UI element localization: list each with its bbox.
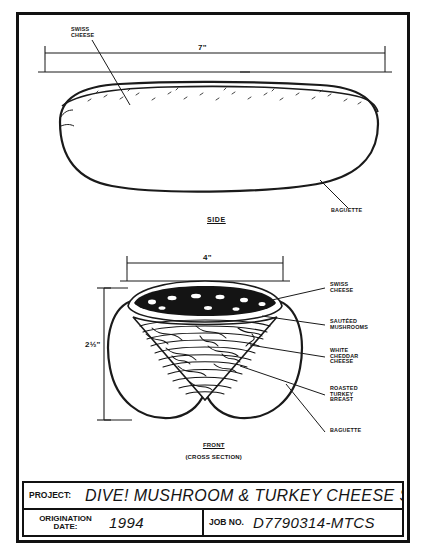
drawing-sheet: SWISS CHEESE BAGUETTE 7" SIDE 4" 2½" SWI… [0, 0, 426, 555]
side-width-dimension [38, 46, 392, 72]
job-number-value: D7790314-MTCS [246, 514, 375, 531]
title-block: PROJECT: DIVE! MUSHROOM & TURKEY CHEESE … [22, 481, 404, 537]
title-block-meta-row: ORIGINATION DATE: 1994 JOB NO. D7790314-… [24, 510, 402, 535]
origination-date-value: 1994 [102, 514, 144, 531]
front-callout-swiss-cheese: SWISS CHEESE [330, 282, 353, 293]
title-block-project-row: PROJECT: DIVE! MUSHROOM & TURKEY CHEESE … [24, 483, 402, 510]
side-width-dimension-label: 7" [195, 44, 210, 52]
drawing-artwork [0, 0, 426, 555]
side-callout-swiss-cheese: SWISS CHEESE [71, 27, 94, 38]
front-callout-baguette: BAGUETTE [330, 428, 361, 434]
front-callout-white-cheddar-cheese: WHITE CHEDDAR CHEESE [330, 348, 358, 365]
side-baguette-leader [320, 180, 348, 208]
project-label-cell: PROJECT: [24, 483, 78, 508]
job-number-label: JOB NO. [204, 518, 244, 526]
project-value-cell: DIVE! MUSHROOM & TURKEY CHEESE SUB [78, 483, 402, 508]
side-callout-baguette: BAGUETTE [331, 208, 362, 214]
origination-date-value-cell: 1994 [102, 510, 202, 535]
project-value: DIVE! MUSHROOM & TURKEY CHEESE SUB [78, 487, 402, 505]
front-callout-sauteed-mushrooms: SAUTÉED MUSHROOMS [330, 319, 368, 330]
job-number-value-cell: D7790314-MTCS [246, 510, 402, 535]
job-number-label-cell: JOB NO. [202, 510, 246, 535]
front-view-caption-line1: FRONT [203, 442, 225, 448]
front-height-dimension-label: 2½" [83, 341, 103, 349]
front-callout-roasted-turkey-breast: ROASTED TURKEY BREAST [330, 386, 358, 403]
project-label: PROJECT: [24, 491, 71, 499]
front-width-dimension-label: 4" [200, 254, 215, 262]
origination-date-label: ORIGINATION DATE: [24, 515, 102, 530]
side-view-caption: SIDE [207, 216, 226, 223]
swiss-cheese-band [128, 281, 282, 322]
origination-date-label-cell: ORIGINATION DATE: [24, 510, 102, 535]
front-view-caption: FRONT (CROSS SECTION) [165, 436, 255, 467]
front-view-caption-line2: (CROSS SECTION) [185, 454, 242, 460]
